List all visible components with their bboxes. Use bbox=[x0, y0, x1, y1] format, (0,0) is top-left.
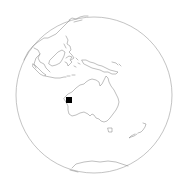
globe-outline bbox=[16, 17, 172, 173]
globe-map bbox=[0, 0, 181, 194]
location-marker bbox=[66, 97, 72, 103]
